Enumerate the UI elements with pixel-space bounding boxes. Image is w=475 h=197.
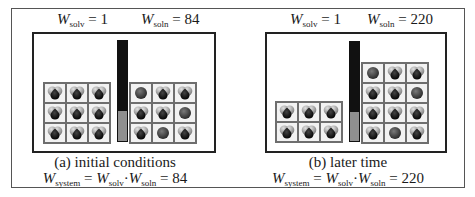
solvent-molecule-icon [133, 85, 149, 101]
solute-molecule-icon [301, 104, 317, 120]
solute-molecule-icon [155, 85, 171, 101]
lattice-cell [363, 64, 383, 82]
panel-caption: (b) later time [233, 154, 463, 171]
solute-molecule-icon [91, 125, 107, 141]
lattice-cell [175, 104, 195, 122]
lattice-cell [175, 84, 195, 102]
right-grid [129, 82, 197, 144]
lattice-cell [67, 124, 87, 142]
bar-fill [350, 112, 359, 141]
solute-molecule-icon [409, 125, 425, 141]
solute-molecule-icon [155, 105, 171, 121]
lattice-cell [277, 123, 297, 141]
lattice-cell [407, 84, 427, 102]
panel-a: Wsolv = 1 Wsoln = 84 (a) initial conditi… [0, 0, 230, 197]
solute-molecule-icon [409, 105, 425, 121]
solute-molecule-icon [279, 124, 295, 140]
solute-molecule-icon [323, 104, 339, 120]
lattice-cell [363, 124, 383, 142]
solvent-molecule-icon [155, 125, 171, 141]
solute-molecule-icon [323, 124, 339, 140]
left-grid [275, 101, 343, 143]
w-solv-label: Wsolv = 1 [290, 11, 341, 29]
solute-molecule-icon [365, 125, 381, 141]
lattice-cell [153, 104, 173, 122]
system-equation: Wsystem = Wsolv·Wsoln = 220 [233, 170, 463, 188]
membrane-bar [349, 41, 360, 142]
lattice-cell [45, 104, 65, 122]
lattice-cell [321, 103, 341, 121]
panel-caption: (a) initial conditions [0, 154, 230, 171]
lattice-cell [385, 84, 405, 102]
lattice-cell [299, 123, 319, 141]
solvent-molecule-icon [409, 85, 425, 101]
lattice-cell [385, 124, 405, 142]
lattice-cell [45, 84, 65, 102]
lattice-cell [299, 103, 319, 121]
solute-molecule-icon [177, 125, 193, 141]
lattice-cell [407, 104, 427, 122]
solute-molecule-icon [387, 105, 403, 121]
lattice-cell [67, 84, 87, 102]
solute-molecule-icon [387, 65, 403, 81]
membrane-bar [117, 40, 128, 142]
lattice-cell [131, 124, 151, 142]
lattice-cell [89, 124, 109, 142]
lattice-cell [407, 124, 427, 142]
lattice-cell [385, 104, 405, 122]
lattice-cell [67, 104, 87, 122]
solute-molecule-icon [177, 85, 193, 101]
lattice-cell [321, 123, 341, 141]
left-grid [43, 82, 111, 144]
lattice-cell [385, 64, 405, 82]
lattice-cell [363, 104, 383, 122]
solute-molecule-icon [409, 65, 425, 81]
solute-molecule-icon [365, 105, 381, 121]
lattice-cell [363, 84, 383, 102]
lattice-cell [407, 64, 427, 82]
lattice-cell [153, 84, 173, 102]
solute-molecule-icon [133, 125, 149, 141]
solvent-molecule-icon [387, 125, 403, 141]
lattice-cell [153, 124, 173, 142]
w-solv-label: Wsolv = 1 [57, 11, 108, 29]
w-soln-label: Wsoln = 84 [141, 11, 199, 29]
solute-molecule-icon [69, 125, 85, 141]
solute-molecule-icon [133, 105, 149, 121]
panel-b: Wsolv = 1 Wsoln = 220 (b) later time Wsy… [233, 0, 463, 197]
bar-fill [118, 111, 127, 141]
solute-molecule-icon [47, 105, 63, 121]
lattice-cell [45, 124, 65, 142]
solute-molecule-icon [47, 125, 63, 141]
solvent-molecule-icon [365, 65, 381, 81]
solute-molecule-icon [91, 85, 107, 101]
solute-molecule-icon [69, 85, 85, 101]
solute-molecule-icon [47, 85, 63, 101]
system-equation: Wsystem = Wsolv·Wsoln = 84 [0, 170, 230, 188]
solute-molecule-icon [365, 85, 381, 101]
solute-molecule-icon [301, 124, 317, 140]
right-grid [361, 62, 429, 144]
lattice-cell [131, 84, 151, 102]
solute-molecule-icon [279, 104, 295, 120]
solute-molecule-icon [69, 105, 85, 121]
solvent-molecule-icon [177, 105, 193, 121]
lattice-cell [175, 124, 195, 142]
lattice-cell [89, 104, 109, 122]
solute-molecule-icon [91, 105, 107, 121]
lattice-cell [131, 104, 151, 122]
lattice-cell [89, 84, 109, 102]
w-soln-label: Wsoln = 220 [367, 11, 433, 29]
lattice-cell [277, 103, 297, 121]
solute-molecule-icon [387, 85, 403, 101]
